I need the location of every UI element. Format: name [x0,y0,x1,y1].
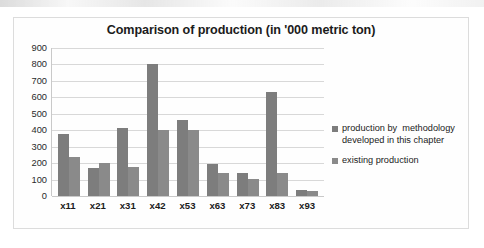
scan-artifact-strip [0,0,484,7]
legend-swatch-icon [332,158,338,164]
bar-x42-series1 [147,64,158,196]
bar-x73-series1 [237,173,248,196]
bar-x83-series1 [266,92,277,196]
x-axis-tick-label: x31 [113,200,143,211]
x-axis-tick-label: x53 [173,200,203,211]
x-axis-tick-label: x63 [202,200,232,211]
y-axis-tick-label: 400 [20,125,47,135]
bar-x53-series1 [177,120,188,196]
bar-x63-series1 [207,164,218,196]
bar-x93-series2 [307,191,318,196]
bar-x21-series2 [99,163,110,196]
x-axis-tick-label: x93 [292,200,322,211]
y-axis: 9008007006005004003002001000 [20,48,47,196]
bar-x31-series1 [117,128,128,196]
legend-label: production by methodology developed in t… [342,123,455,146]
y-axis-tick-label: 100 [20,175,47,185]
bar-x73-series2 [248,179,259,196]
chart-container: Comparison of production (in '000 metric… [13,17,469,229]
x-axis: x11x21x31x42x53x63x73x83x93 [51,200,324,211]
bar-x42-series2 [158,130,169,196]
bar-group-x21 [84,48,114,196]
bars-layer [52,48,324,196]
bar-group-x53 [173,48,203,196]
bar-x21-series1 [88,168,99,196]
bar-x53-series2 [188,130,199,196]
bar-x63-series2 [218,173,229,196]
bar-group-x63 [203,48,233,196]
y-axis-tick-label: 200 [20,158,47,168]
y-axis-tick-label: 0 [20,191,47,201]
gridline [52,196,324,197]
bar-x31-series2 [128,167,139,196]
x-axis-tick-label: x42 [143,200,173,211]
legend-item-1[interactable]: production by methodology developed in t… [332,123,484,146]
y-axis-tick-label: 300 [20,142,47,152]
legend-item-2[interactable]: existing production [332,155,484,167]
legend-swatch-icon [332,126,338,132]
bar-x93-series1 [296,190,307,196]
bar-group-x31 [114,48,144,196]
chart-title: Comparison of production (in '000 metric… [14,23,468,37]
bar-x83-series2 [277,173,288,196]
y-axis-tick-label: 800 [20,59,47,69]
legend-label: existing production [342,155,419,167]
x-axis-tick-label: x21 [83,200,113,211]
y-axis-tick-label: 900 [20,43,47,53]
y-axis-tick-label: 700 [20,76,47,86]
y-axis-tick-label: 600 [20,92,47,102]
bar-x11-series1 [58,134,69,196]
plot-area [51,48,324,196]
bar-group-x93 [292,48,322,196]
bar-group-x11 [54,48,84,196]
chart-legend: production by methodology developed in t… [332,123,484,176]
bar-group-x42 [143,48,173,196]
x-axis-tick-label: x73 [232,200,262,211]
x-axis-tick-label: x83 [262,200,292,211]
x-axis-tick-label: x11 [53,200,83,211]
y-axis-tick-label: 500 [20,109,47,119]
bar-x11-series2 [69,157,80,196]
bar-group-x83 [262,48,292,196]
bar-group-x73 [233,48,263,196]
